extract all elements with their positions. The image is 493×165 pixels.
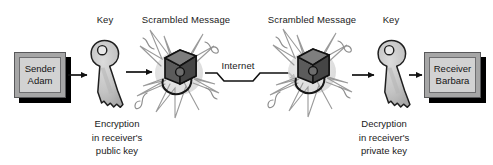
label-scrambled-right: Scrambled Message [268, 14, 356, 27]
label-scrambled-left: Scrambled Message [142, 14, 230, 27]
caption-decryption-line1: Decryption [359, 117, 409, 131]
scrambled-cube-left [165, 50, 196, 84]
caption-decryption-line3: private key [359, 144, 409, 158]
caption-encryption-line1: Encryption [92, 117, 142, 131]
key-icon-right [378, 41, 410, 108]
caption-encryption-line3: public key [92, 144, 142, 158]
zigzag-network-path-icon [205, 73, 296, 81]
caption-encryption: Encryption in receiver's public key [92, 117, 142, 158]
scrambled-message-icon-left [135, 30, 219, 118]
scrambled-cube-right [298, 49, 329, 83]
caption-decryption: Decryption in receiver's private key [359, 117, 409, 158]
caption-decryption-line2: in receiver's [359, 131, 409, 145]
label-internet: Internet [221, 60, 254, 73]
label-key-right: Key [383, 14, 400, 27]
encryption-flow-diagram: Sender Adam Receiver Barbara [0, 0, 493, 165]
label-key-left: Key [97, 14, 114, 27]
diagram-vector-layer [0, 0, 493, 165]
caption-encryption-line2: in receiver's [92, 131, 142, 145]
key-icon-left [91, 41, 123, 108]
